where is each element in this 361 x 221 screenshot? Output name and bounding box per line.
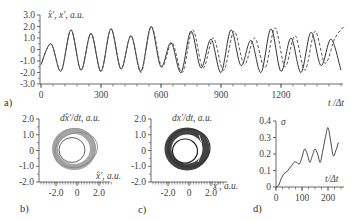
y-tick-label: 0.4 (259, 116, 271, 126)
panel-c-ylabel: dx'/dt, a.u. (172, 113, 212, 123)
y-tick-label: -2.0 (20, 68, 35, 78)
x-tick-label: 1200 (272, 90, 291, 100)
y-tick-label: 0 (141, 146, 146, 156)
panel-d: 0.40.30.20.10 0100200 σ t/Δt d) (253, 116, 344, 215)
panel-d-label: d) (253, 203, 262, 215)
y-tick-label: 0 (266, 182, 271, 192)
x-tick-label: 0 (187, 188, 192, 198)
panel-a-ylabel: x̂', x', a.u. (47, 10, 84, 20)
panel-a-xlabel: t /Δt (328, 98, 344, 108)
panel-b-x-ticks: -2.002.0 (41, 182, 111, 198)
panel-d-x-ticks: 0100200 (274, 187, 341, 203)
y-tick-label: -1.0 (131, 161, 146, 171)
y-tick-label: 1.0 (134, 130, 146, 140)
panel-c-phase-ring (168, 129, 210, 167)
panel-b-y-ticks: 2.01.00-1.0-2.0 (19, 114, 39, 187)
y-tick-label: 2.0 (22, 114, 34, 124)
y-tick-label: -2.0 (131, 177, 146, 187)
figure: 3.02.01.00-1.0-2.0-3.0 03006009001200 x̂… (0, 0, 361, 221)
panel-b: 2.01.00-1.0-2.0 -2.002.0 dx̂'/dt, a.u. x… (19, 113, 121, 215)
panel-d-xlabel: t/Δt (325, 174, 339, 184)
x-tick-label: 0 (274, 193, 279, 203)
panel-b-phase-ring (50, 127, 103, 174)
y-tick-label: 0.2 (259, 149, 271, 159)
y-tick-label: 1.0 (23, 33, 35, 43)
panel-a: 3.02.01.00-1.0-2.0-3.0 03006009001200 x̂… (4, 10, 345, 109)
x-tick-label: 900 (214, 90, 229, 100)
panel-c-y-ticks: 2.01.00-1.0-2.0 (131, 114, 151, 187)
x-tick-label: 2.0 (93, 188, 105, 198)
x-tick-label: 600 (154, 90, 169, 100)
y-tick-label: -2.0 (19, 177, 34, 187)
x-tick-label: -2.0 (160, 188, 175, 198)
y-tick-label: 0.3 (259, 133, 271, 143)
y-tick-label: 3.0 (23, 10, 35, 20)
x-tick-label: 0 (39, 90, 44, 100)
panel-c-label: c) (138, 204, 147, 216)
panel-a-y-ticks: 3.02.01.00-1.0-2.0-3.0 (20, 10, 40, 89)
y-tick-label: -3.0 (20, 79, 35, 89)
panel-b-ylabel: dx̂'/dt, a.u. (60, 113, 100, 123)
panel-d-ylabel: σ (281, 117, 286, 127)
y-tick-label: 2.0 (23, 22, 35, 32)
y-tick-label: 1.0 (22, 130, 34, 140)
panel-c-xlabel: x', a.u. (212, 181, 238, 191)
x-tick-label: 300 (94, 90, 109, 100)
panel-b-label: b) (20, 203, 29, 215)
panel-b-xlabel: x̂', a.u. (95, 171, 121, 181)
x-tick-label: 200 (321, 193, 336, 203)
y-tick-label: -1.0 (19, 161, 34, 171)
x-tick-label: 100 (295, 193, 310, 203)
y-tick-label: 0 (29, 146, 34, 156)
panel-a-label: a) (4, 97, 13, 109)
y-tick-label: 0.1 (259, 166, 271, 176)
panel-d-y-ticks: 0.40.30.20.10 (259, 116, 276, 192)
x-tick-label: -2.0 (48, 188, 63, 198)
y-tick-label: 0 (30, 45, 35, 55)
panel-c: 2.01.00-1.0-2.0 -2.002.0 dx'/dt, a.u. x'… (131, 113, 238, 216)
panel-a-series-dashed (41, 25, 345, 72)
y-tick-label: 2.0 (134, 114, 146, 124)
panel-a-x-ticks: 03006009001200 (39, 84, 341, 100)
x-tick-label: 0 (75, 188, 80, 198)
y-tick-label: -1.0 (20, 56, 35, 66)
